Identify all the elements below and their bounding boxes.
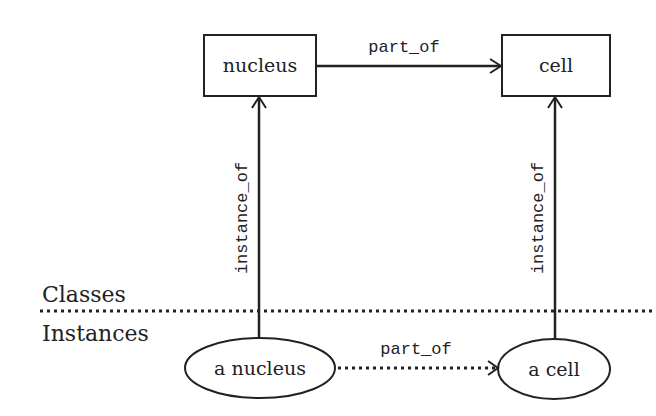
class-node-nucleus: nucleus — [204, 35, 316, 96]
edge-nucleus-instance-of: instance_of — [233, 97, 266, 338]
instance-node-a-cell: a cell — [498, 339, 610, 399]
edge-cell-instance-of-label: instance_of — [529, 162, 548, 274]
edge-cell-instance-of: instance_of — [529, 97, 562, 339]
instance-node-a-cell-label: a cell — [528, 358, 579, 380]
ontology-diagram: nucleus cell part_of instance_of instanc… — [0, 0, 656, 416]
class-node-cell: cell — [502, 35, 610, 96]
instance-node-a-nucleus-label: a nucleus — [214, 357, 306, 379]
edge-class-part-of: part_of — [316, 38, 501, 73]
level-label-classes: Classes — [42, 282, 126, 307]
class-node-nucleus-label: nucleus — [223, 54, 297, 76]
level-label-instances: Instances — [42, 321, 149, 346]
instance-node-a-nucleus: a nucleus — [185, 338, 335, 398]
edge-class-part-of-label: part_of — [368, 38, 439, 57]
edge-instance-part-of: part_of — [338, 340, 498, 375]
edge-instance-part-of-label: part_of — [380, 340, 451, 359]
class-node-cell-label: cell — [539, 54, 573, 76]
edge-nucleus-instance-of-label: instance_of — [233, 162, 252, 274]
